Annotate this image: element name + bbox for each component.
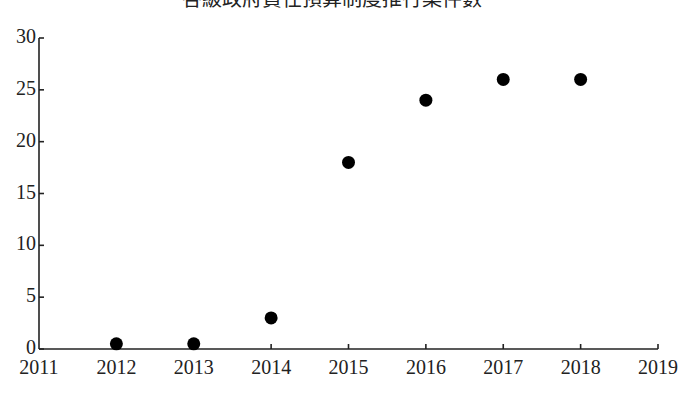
x-tick-label: 2012 — [96, 356, 136, 378]
x-tick-label: 2019 — [638, 356, 678, 378]
x-tick-label: 2015 — [329, 356, 369, 378]
data-point — [574, 73, 587, 86]
chart-title: 各級政府責任預算制度推行案件數 — [182, 0, 482, 11]
x-tick-label: 2011 — [19, 356, 58, 378]
data-points — [110, 73, 587, 350]
scatter-chart: 各級政府責任預算制度推行案件數 051015202530201120122013… — [0, 0, 698, 401]
y-tick-label: 5 — [26, 284, 36, 306]
x-tick-label: 2014 — [251, 356, 291, 378]
data-point — [265, 311, 278, 324]
y-tick-label: 15 — [16, 181, 36, 203]
data-point — [342, 156, 355, 169]
y-tick-label: 25 — [16, 77, 36, 99]
x-tick-label: 2018 — [561, 356, 601, 378]
y-tick-label: 30 — [16, 25, 36, 47]
data-point — [110, 337, 123, 350]
data-point — [497, 73, 510, 86]
x-tick-label: 2016 — [406, 356, 446, 378]
data-point — [419, 94, 432, 107]
x-tick-label: 2013 — [174, 356, 214, 378]
y-tick-label: 20 — [16, 129, 36, 151]
y-tick-label: 0 — [26, 336, 36, 358]
x-tick-label: 2017 — [483, 356, 523, 378]
data-point — [187, 337, 200, 350]
y-tick-label: 10 — [16, 232, 36, 254]
